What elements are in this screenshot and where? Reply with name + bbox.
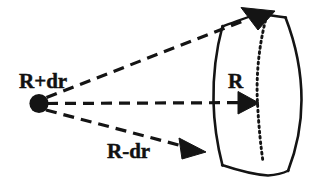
lower-arrowhead [179,138,206,159]
apex-label: R+dr [19,69,67,93]
inner-solid-arc [213,26,222,166]
dashed-ray-group [46,20,247,149]
middle-dotted-arc [257,21,265,162]
bottom-solid-edge [222,165,289,176]
middle-ray-label: R [228,69,244,93]
diagram-canvas: R+dr R-dr R [0,0,324,184]
outer-solid-arc [286,18,302,172]
shell-segment-group [213,13,301,176]
solid-angle-shell-diagram: R+dr R-dr R [0,0,324,184]
label-group: R+dr R-dr R [19,69,244,163]
vertex-dot [29,94,48,113]
lower-ray-label: R-dr [107,139,150,163]
